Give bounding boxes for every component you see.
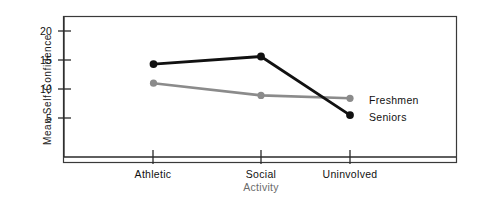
y-tick-label-20: 20: [26, 25, 52, 37]
x-tick-label-athletic: Athletic: [98, 168, 208, 180]
data-point-seniors-social: [257, 53, 265, 61]
x-axis-title: Activity: [206, 181, 316, 193]
y-tick-label-10: 10: [26, 83, 52, 95]
data-point-freshmen-social: [257, 92, 264, 99]
y-tick-label-15: 15: [26, 54, 52, 66]
y-tick-label-5: 5: [26, 112, 52, 124]
chart-figure: Mean Self-Confidence 20 15 10 5 Athletic…: [0, 0, 477, 200]
data-point-freshmen-athletic: [150, 80, 157, 87]
series-label-seniors: Seniors: [369, 111, 407, 123]
x-tick-label-uninvolved: Uninvolved: [295, 168, 405, 180]
series-label-freshmen: Freshmen: [369, 94, 419, 106]
data-point-seniors-uninvolved: [346, 111, 354, 119]
data-point-freshmen-uninvolved: [346, 95, 353, 102]
chart-frame-border: [64, 17, 457, 163]
data-point-seniors-athletic: [150, 60, 158, 68]
